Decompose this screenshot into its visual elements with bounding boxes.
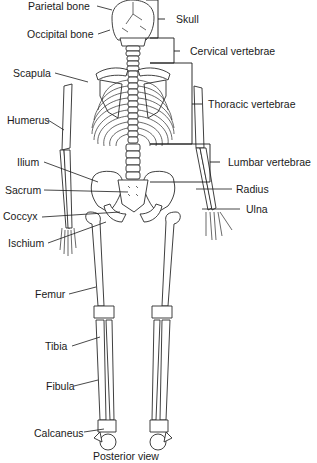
label-cervical-vertebrae: Cervical vertebrae xyxy=(190,46,275,57)
label-skull: Skull xyxy=(176,14,199,25)
label-ilium: Ilium xyxy=(17,157,39,168)
label-tibia: Tibia xyxy=(45,341,67,352)
label-coccyx: Coccyx xyxy=(3,211,37,222)
label-thoracic-vertebrae: Thoracic vertebrae xyxy=(208,99,296,110)
label-scapula: Scapula xyxy=(13,68,51,79)
label-femur: Femur xyxy=(35,289,65,300)
cervical-spine-drawing xyxy=(126,46,140,71)
skull-drawing xyxy=(112,0,154,46)
label-radius: Radius xyxy=(236,184,269,195)
left-arm-drawing xyxy=(60,84,76,256)
label-ulna: Ulna xyxy=(246,204,268,215)
right-leg-drawing xyxy=(150,212,180,450)
label-occipital-bone: Occipital bone xyxy=(27,29,94,40)
label-parietal-bone: Parietal bone xyxy=(28,1,90,12)
label-calcaneus: Calcaneus xyxy=(34,428,84,439)
label-fibula: Fibula xyxy=(46,381,75,392)
label-lumbar-vertebrae: Lumbar vertebrae xyxy=(228,157,311,168)
left-leg-drawing xyxy=(86,212,116,450)
figure-caption: Posterior view xyxy=(93,451,159,462)
lumbar-spine-drawing xyxy=(126,144,140,179)
label-ischium: Ischium xyxy=(8,238,44,249)
label-humerus: Humerus xyxy=(7,115,50,126)
label-sacrum: Sacrum xyxy=(5,185,41,196)
